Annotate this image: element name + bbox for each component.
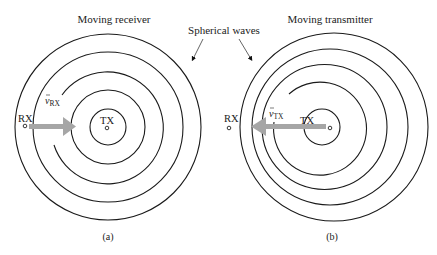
tx-node-a (105, 126, 109, 130)
panel-b-title: Moving transmitter (287, 13, 373, 25)
spherical-waves-annotation: Spherical waves (188, 24, 260, 59)
doppler-figure: Moving receiver vRX RX TX (a) Spherical … (0, 0, 437, 255)
rx-node-a (23, 124, 27, 128)
rx-node-b (227, 126, 231, 130)
annotation-arrow-right (239, 39, 251, 59)
spherical-waves-label: Spherical waves (188, 24, 260, 36)
tx-node-b (328, 126, 332, 130)
panel-a-title: Moving receiver (78, 13, 151, 25)
velocity-arrow-rx (29, 117, 76, 136)
rx-label-b: RX (224, 113, 239, 124)
velocity-label-rx: vRX (45, 95, 60, 108)
panel-b-caption: (b) (326, 231, 338, 243)
tx-label-a: TX (100, 115, 114, 126)
tx-label-b: TX (300, 115, 314, 126)
rx-label-a: RX (18, 113, 33, 124)
panel-a: Moving receiver vRX RX TX (a) (15, 13, 201, 243)
velocity-arrow-tx (251, 117, 326, 136)
panel-b: Moving transmitter vTX RX TX (b) (224, 13, 428, 243)
velocity-label-tx: vTX (269, 108, 284, 121)
panel-a-caption: (a) (102, 231, 113, 243)
annotation-arrow-left (193, 39, 203, 59)
